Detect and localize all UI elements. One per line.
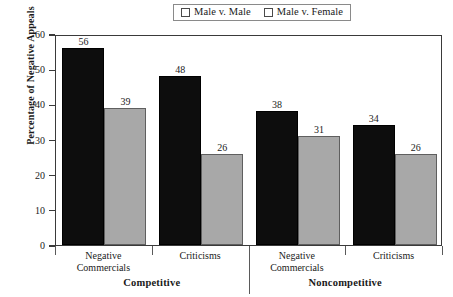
legend-entry-male-v-female: Male v. Female [264,7,343,18]
x-group-label: Noncompetitive [265,277,425,288]
x-group-label: Competitive [72,277,232,288]
bar: 26 [395,154,437,245]
bar-value-label: 39 [120,96,130,107]
bar: 26 [201,154,243,245]
x-axis-tick [55,246,56,255]
bar: 39 [104,108,146,245]
x-axis-tick [152,246,153,255]
x-category-label: NegativeCommercials [247,250,347,273]
y-tick-label: 30 [20,134,45,147]
bar-value-label: 31 [314,124,324,135]
x-category-label: NegativeCommercials [53,250,153,273]
y-tick-label: 40 [20,98,45,111]
bar: 34 [353,125,395,245]
x-category-label-line: Negative [53,250,153,262]
x-group-divider [249,246,250,294]
bar: 38 [256,111,298,245]
y-tick-label: 20 [20,169,45,182]
x-category-label-line: Commercials [247,262,347,274]
x-category-label-line: Criticisms [150,250,250,262]
bar-value-label: 56 [78,36,88,47]
x-axis-tick [442,246,443,255]
x-category-label-line: Negative [247,250,347,262]
legend-label: Male v. Male [194,7,251,18]
legend-swatch-black-square [181,8,190,17]
x-axis-tick [345,246,346,255]
y-tick-label: 50 [20,63,45,76]
legend-swatch-grey-square [264,8,273,17]
bar-value-label: 38 [272,99,282,110]
legend-entry-male-v-male: Male v. Male [181,7,251,18]
bar-value-label: 34 [369,113,379,124]
y-tick-label: 60 [20,28,45,41]
y-axis-title: Percentage of Negative Appeals [25,0,36,176]
bar-value-label: 48 [175,64,185,75]
bar: 56 [62,48,104,245]
y-tick-label: 0 [20,239,45,252]
bar: 31 [298,136,340,245]
bar-value-label: 26 [411,142,421,153]
bar: 48 [159,76,201,245]
chart-legend: Male v. Male Male v. Female [173,4,351,21]
x-category-label: Criticisms [150,250,250,262]
y-tick-label: 10 [20,204,45,217]
plot-area: 5639482638313426 [55,35,442,246]
x-category-label-line: Criticisms [344,250,444,262]
x-category-label-line: Commercials [53,262,153,274]
legend-label: Male v. Female [277,7,343,18]
x-category-label: Criticisms [344,250,444,262]
bar-value-label: 26 [217,142,227,153]
